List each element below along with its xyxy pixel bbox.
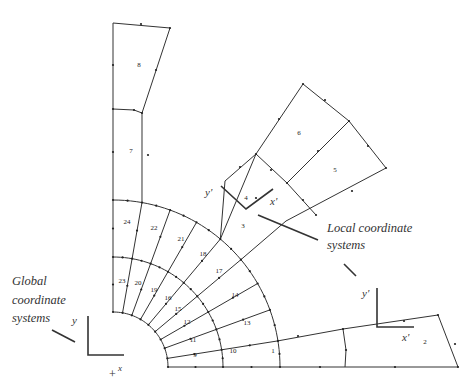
fem-mesh-diagram: 123456789101112131415161718192021222324 …	[0, 0, 462, 382]
global-caption-line-1: Global	[12, 274, 47, 288]
local-lower-x-label: x'	[401, 331, 410, 343]
element-label-21: 21	[178, 235, 186, 243]
element-label-23: 23	[119, 277, 127, 285]
element-label-3: 3	[241, 222, 245, 230]
local-caption-line-1: Local coordinate	[326, 221, 413, 235]
local-leader-line-upper	[258, 215, 318, 240]
element-label-6: 6	[297, 129, 301, 137]
element-label-16: 16	[165, 294, 173, 302]
element-label-4: 4	[244, 194, 248, 202]
element-label-20: 20	[135, 279, 143, 287]
global-coordinate-system: y x +	[52, 314, 124, 381]
local-lower-y-label: y'	[361, 287, 370, 299]
element-label-5: 5	[333, 166, 337, 174]
element-label-14: 14	[232, 291, 240, 299]
global-caption-line-2: coordinate	[12, 293, 66, 307]
global-caption-line-3: systems	[12, 311, 50, 325]
local-coordinate-system-lower: y' x'	[344, 264, 414, 343]
element-label-1: 1	[271, 347, 275, 355]
element-label-7: 7	[129, 147, 133, 155]
element-label-15: 15	[175, 305, 183, 313]
global-axes-icon	[88, 316, 124, 355]
element-label-22: 22	[151, 224, 159, 232]
global-origin-mark: +	[109, 367, 116, 381]
element-label-12: 12	[184, 318, 192, 326]
element-label-2: 2	[423, 338, 427, 346]
global-x-label: x	[117, 363, 122, 373]
element-label-9: 9	[193, 351, 197, 359]
element-label-19: 19	[151, 286, 159, 294]
element-label-24: 24	[124, 218, 132, 226]
local-caption-line-2: systems	[327, 238, 365, 252]
element-label-11: 11	[190, 336, 197, 344]
mesh-nodes	[112, 23, 459, 368]
element-label-18: 18	[200, 250, 208, 258]
local-leader-line-lower	[344, 264, 356, 276]
local-upper-y-label: y'	[204, 186, 213, 198]
element-label-13: 13	[244, 319, 252, 327]
element-label-8: 8	[137, 61, 141, 69]
element-labels: 123456789101112131415161718192021222324	[119, 61, 428, 359]
local-upper-x-label: x'	[269, 195, 278, 207]
global-y-label: y	[71, 314, 77, 326]
global-leader-line	[52, 330, 75, 342]
mesh-lines	[113, 23, 458, 367]
element-label-17: 17	[216, 267, 224, 275]
element-label-10: 10	[230, 347, 238, 355]
